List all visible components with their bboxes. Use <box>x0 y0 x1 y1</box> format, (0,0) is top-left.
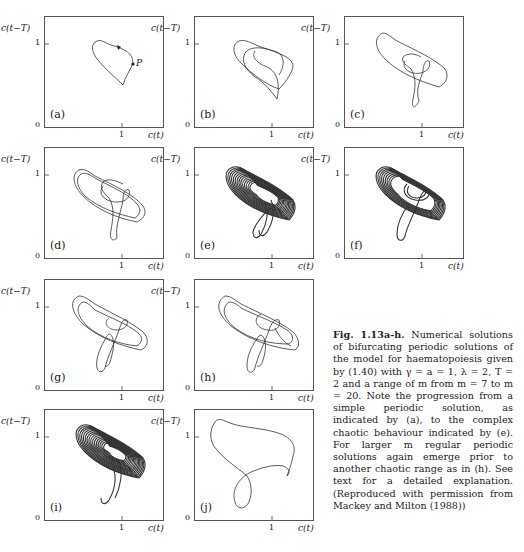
origin-label: 0 <box>185 251 190 260</box>
x-tick-label: 1 <box>269 523 274 532</box>
x-axis-label: c(t) <box>448 130 464 140</box>
y-tick-label: 1 <box>185 431 190 440</box>
origin-label: 0 <box>35 383 40 392</box>
y-axis-label: c(t−T) <box>1 286 30 296</box>
phase-portrait-f: (f)c(t−T)101c(t) <box>344 147 464 259</box>
origin-label: 0 <box>185 120 190 129</box>
panel-label: (d) <box>50 239 66 252</box>
trajectory-curve <box>211 419 295 508</box>
y-tick-label: 1 <box>35 169 40 178</box>
y-tick-label: 1 <box>35 301 40 310</box>
phase-portrait-d: (d)c(t−T)101c(t) <box>44 147 164 259</box>
x-tick-label: 1 <box>119 393 124 402</box>
panel-label: (j) <box>200 501 212 514</box>
x-axis-label: c(t) <box>298 523 314 533</box>
x-tick-label: 1 <box>119 523 124 532</box>
caption-title: Fig. 1.13a-h. <box>333 329 404 340</box>
origin-label: 0 <box>35 120 40 129</box>
origin-label: 0 <box>335 120 340 129</box>
x-axis-label: c(t) <box>448 261 464 271</box>
x-tick-label: 1 <box>269 261 274 270</box>
x-axis-label: c(t) <box>148 130 164 140</box>
y-axis-label: c(t−T) <box>151 154 180 164</box>
trajectory-curve <box>219 296 299 350</box>
y-axis-label: c(t−T) <box>1 154 30 164</box>
trajectory-curve <box>224 302 292 344</box>
x-axis-label: c(t) <box>148 523 164 533</box>
y-axis-label: c(t−T) <box>151 416 180 426</box>
origin-label: 0 <box>35 251 40 260</box>
panel-label: (i) <box>50 501 62 514</box>
panel-label: (h) <box>200 371 216 384</box>
y-tick-label: 1 <box>185 38 190 47</box>
y-axis-label: c(t−T) <box>151 286 180 296</box>
panel-label: (c) <box>350 108 365 121</box>
origin-label: 0 <box>335 251 340 260</box>
panel-label: (e) <box>200 239 215 252</box>
y-tick-label: 1 <box>185 169 190 178</box>
trajectory-curve <box>234 40 293 89</box>
panel-label: (g) <box>50 371 66 384</box>
trajectory-curve <box>403 54 430 107</box>
panel-label: (a) <box>50 108 65 121</box>
phase-portrait-g: (g)c(t−T)101c(t) <box>44 279 164 391</box>
y-tick-label: 1 <box>35 431 40 440</box>
panel-label: (b) <box>200 108 216 121</box>
trajectory-curve <box>101 468 115 504</box>
x-tick-label: 1 <box>269 393 274 402</box>
phase-portrait-h: (h)c(t−T)101c(t) <box>194 279 314 391</box>
x-axis-label: c(t) <box>148 261 164 271</box>
x-axis-label: c(t) <box>298 130 314 140</box>
figure-caption: Fig. 1.13a-h. Numerical solutions of bif… <box>333 329 513 512</box>
y-axis-label: c(t−T) <box>1 23 30 33</box>
y-tick-label: 1 <box>335 169 340 178</box>
x-tick-label: 1 <box>419 261 424 270</box>
x-tick-label: 1 <box>419 130 424 139</box>
trajectory-curve <box>243 48 283 99</box>
phase-portrait-c: (c)c(t−T)101c(t) <box>344 16 464 128</box>
plot-frame <box>194 409 314 521</box>
trajectory-curve <box>97 318 128 372</box>
x-tick-label: 1 <box>119 130 124 139</box>
y-tick-label: 1 <box>185 301 190 310</box>
x-tick-label: 1 <box>269 130 274 139</box>
point-p-label: P <box>136 58 142 68</box>
y-axis-label: c(t−T) <box>151 23 180 33</box>
origin-label: 0 <box>35 513 40 522</box>
x-axis-label: c(t) <box>298 393 314 403</box>
y-axis-label: c(t−T) <box>1 416 30 426</box>
y-tick-label: 1 <box>35 38 40 47</box>
y-axis-label: c(t−T) <box>301 154 330 164</box>
panel-label: (f) <box>350 239 363 252</box>
caption-body: Numerical solutions of bifurcating perio… <box>333 329 513 511</box>
x-tick-label: 1 <box>119 261 124 270</box>
x-axis-label: c(t) <box>148 393 164 403</box>
phase-portrait-e: (e)c(t−T)101c(t) <box>194 147 314 259</box>
phase-portrait-b: (b)c(t−T)101c(t) <box>194 16 314 128</box>
phase-portrait-j: (j)c(t−T)101c(t) <box>194 409 314 521</box>
phase-portrait-i: (i)c(t−T)101c(t) <box>44 409 164 521</box>
origin-label: 0 <box>185 513 190 522</box>
point-p-marker <box>131 62 134 65</box>
trajectory-curve <box>376 33 447 87</box>
y-axis-label: c(t−T) <box>301 23 330 33</box>
trajectory-curve <box>93 40 134 85</box>
phase-portrait-a: P(a)c(t−T)101c(t) <box>44 16 164 128</box>
direction-arrow-icon <box>117 45 121 50</box>
x-axis-label: c(t) <box>298 261 314 271</box>
origin-label: 0 <box>185 383 190 392</box>
y-tick-label: 1 <box>335 38 340 47</box>
